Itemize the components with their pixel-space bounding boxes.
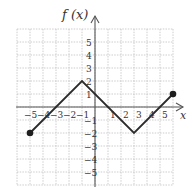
y-tick-label: 4 <box>86 51 92 61</box>
x-tick-label: 5 <box>162 110 168 120</box>
y-axis-title: f (x) <box>61 7 88 22</box>
y-tick-label: −5 <box>84 168 98 178</box>
y-tick-label: −4 <box>84 155 98 165</box>
closed-endpoint-dot <box>170 91 177 98</box>
closed-endpoint-dot <box>27 130 34 137</box>
x-tick-label: −2 <box>63 110 76 120</box>
x-axis-title: x <box>180 109 187 122</box>
y-tick-label: −1 <box>84 116 97 126</box>
function-graph: −5−4−3−2−112345 54321−1−2−3−4−5 f (x) x <box>0 0 193 187</box>
x-tick-label: −5 <box>24 110 38 120</box>
y-tick-label: 5 <box>86 38 92 48</box>
y-tick-label: 3 <box>86 64 92 74</box>
x-tick-label: 2 <box>123 110 129 120</box>
y-tick-label: −2 <box>84 129 97 139</box>
x-tick-label: 3 <box>136 110 142 120</box>
y-tick-label: −3 <box>84 142 98 152</box>
